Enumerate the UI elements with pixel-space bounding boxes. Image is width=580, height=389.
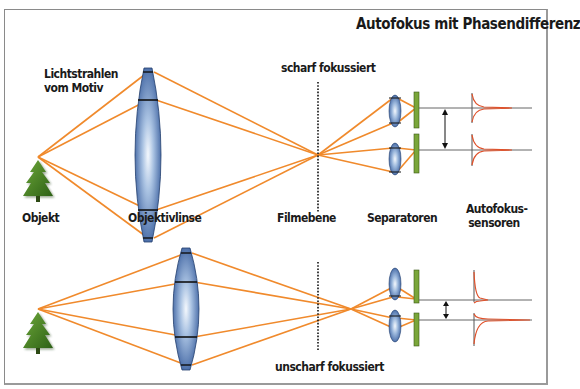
sensor-curves	[472, 93, 512, 166]
out-of-focus-diagram	[23, 248, 532, 370]
phase-distance-arrow	[442, 109, 448, 149]
sensor-plates	[414, 92, 419, 173]
focus-blurred-label: unscharf fokussiert	[275, 361, 384, 374]
sensor-plates	[414, 270, 419, 346]
focus-sharp-label: scharf fokussiert	[281, 62, 375, 75]
light-rays	[38, 72, 416, 238]
separator-lenses	[389, 95, 401, 175]
diagram-title: Autofokus mit Phasendifferenz	[356, 18, 580, 31]
separators-label: Separatoren	[367, 212, 437, 225]
separator-lenses	[389, 268, 401, 342]
object-label: Objekt	[22, 212, 59, 225]
light-rays	[38, 253, 416, 365]
lens-label: Objektivlinse	[128, 212, 201, 225]
rays-label-line2: vom Motiv	[44, 82, 103, 95]
rays-label-line1: Lichtstrahlen	[44, 68, 118, 81]
af-sensors-label-line1: Autofokus-	[466, 203, 522, 216]
phase-distance-arrow	[443, 301, 449, 319]
objective-lens	[173, 248, 199, 370]
tree-icon	[23, 312, 55, 354]
sensor-curves	[474, 270, 530, 346]
af-sensors-label-line2: sensoren	[466, 217, 522, 230]
film-plane-label: Filmebene	[277, 212, 336, 225]
